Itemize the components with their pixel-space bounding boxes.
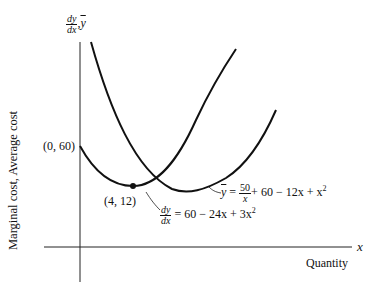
y-axis-symbol: dydx,y <box>66 14 86 35</box>
ac-frac-den: x <box>243 194 247 204</box>
min-point-marker <box>130 183 136 189</box>
mc-rhs: = 60 − 24x + 3x <box>174 207 251 221</box>
marginal-cost-curve <box>80 49 236 186</box>
average-cost-curve <box>91 42 276 192</box>
ac-equals: = <box>229 185 236 199</box>
ac-lhs: y <box>221 185 226 199</box>
y-symbol-ybar: y <box>80 16 85 30</box>
ac-leader-line <box>209 187 221 193</box>
y-symbol-denominator: dx <box>67 25 76 35</box>
x-axis-label: Quantity <box>306 257 348 269</box>
marginal-cost-equation: dydx = 60 − 24x + 3x2 <box>160 205 256 226</box>
mc-sup: 2 <box>252 206 256 215</box>
mc-frac-den: dx <box>161 216 170 226</box>
intercept-label: (0, 60) <box>43 140 75 152</box>
x-axis-symbol: x <box>357 240 363 253</box>
mc-leader-line <box>146 192 160 210</box>
ac-sup: 2 <box>322 184 326 193</box>
average-cost-equation: y = 50x+ 60 − 12x + x2 <box>221 183 326 204</box>
min-point-label: (4, 12) <box>104 195 136 207</box>
y-axis-label: Marginal cost, Average cost <box>6 111 21 250</box>
ac-rhs: + 60 − 12x + x <box>251 185 322 199</box>
